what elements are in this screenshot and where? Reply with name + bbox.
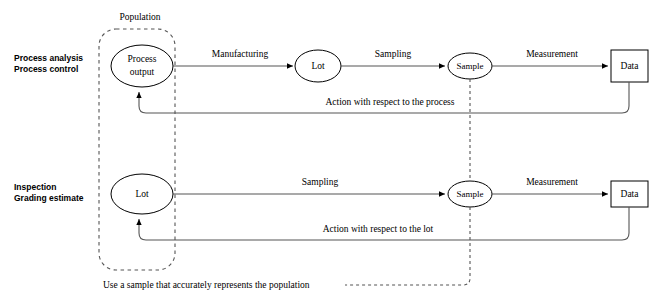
node-lot-inspection-label: Lot: [135, 189, 149, 199]
node-data-process[interactable]: Data: [611, 50, 648, 82]
row-inspection: Inspection Grading estimate Lot Sampling…: [14, 174, 648, 240]
row-label-process-line1: Process analysis: [14, 53, 83, 63]
row-label-process: Process analysis Process control: [14, 53, 83, 74]
node-lot-inspection[interactable]: Lot: [111, 174, 173, 214]
node-lot-process-label: Lot: [311, 61, 325, 71]
node-sample-process[interactable]: Sample: [448, 53, 492, 79]
node-sample-inspection[interactable]: Sample: [448, 181, 492, 207]
node-sample-inspection-label: Sample: [457, 189, 484, 199]
row-label-inspection-line1: Inspection: [14, 182, 57, 192]
edge-sampling-process-label: Sampling: [375, 49, 412, 59]
row-label-process-line2: Process control: [14, 64, 78, 74]
node-process-output[interactable]: Process output: [111, 45, 173, 87]
node-process-output-label-line2: output: [130, 67, 155, 77]
node-process-output-shape: [111, 45, 173, 87]
population-group-label: Population: [119, 12, 160, 22]
edge-feedback-inspection-label: Action with respect to the lot: [323, 224, 434, 234]
node-data-process-label: Data: [621, 61, 640, 71]
edge-manufacturing-label: Manufacturing: [212, 49, 269, 59]
diagram-canvas: Population Process analysis Process cont…: [0, 0, 658, 301]
node-process-output-label-line1: Process: [127, 54, 156, 64]
sample-population-connector: [345, 79, 470, 285]
row-process: Process analysis Process control Process…: [14, 45, 648, 113]
diagram-caption: Use a sample that accurately represents …: [103, 280, 310, 290]
edge-measurement-inspection-label: Measurement: [526, 177, 578, 187]
row-label-inspection-line2: Grading estimate: [14, 193, 84, 203]
node-data-inspection-label: Data: [621, 189, 640, 199]
node-sample-process-label: Sample: [457, 61, 484, 71]
row-label-inspection: Inspection Grading estimate: [14, 182, 84, 203]
edge-feedback-process-label: Action with respect to the process: [325, 97, 454, 107]
edge-measurement-process-label: Measurement: [526, 49, 578, 59]
diagram-svg: Population Process analysis Process cont…: [0, 0, 658, 301]
edge-sampling-inspection-label: Sampling: [302, 177, 339, 187]
sample-connector-vertical-lower: [345, 207, 470, 285]
node-data-inspection[interactable]: Data: [611, 181, 648, 207]
node-lot-process[interactable]: Lot: [295, 50, 341, 82]
